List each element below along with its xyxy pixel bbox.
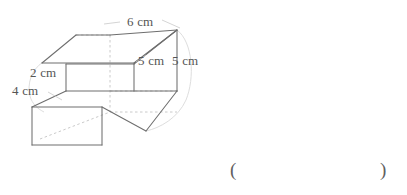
dimension-label-depth-upper: 5 cm: [138, 54, 164, 67]
geometry-figure: 6 cm 5 cm 5 cm 2 cm 4 cm: [0, 0, 407, 195]
hidden-edges: [40, 35, 177, 139]
figure-drawing: [0, 0, 407, 195]
answer-close-paren: ): [380, 160, 386, 179]
dimension-label-top-length: 6 cm: [127, 15, 153, 28]
lower-top-right-edge: [102, 107, 146, 131]
top-face-top-edge: [110, 30, 177, 35]
dimension-label-depth-lower: 5 cm: [172, 54, 198, 67]
dimension-label-step-height: 2 cm: [30, 66, 56, 79]
dimension-label-base-height: 4 cm: [12, 84, 38, 97]
leader-6cm-right: [162, 20, 180, 28]
hidden-diagonal-lower: [40, 112, 110, 139]
answer-open-paren: (: [230, 160, 236, 179]
right-arc: [146, 30, 191, 131]
top-face-left-edge: [42, 35, 76, 63]
leader-6cm-left: [104, 22, 120, 24]
